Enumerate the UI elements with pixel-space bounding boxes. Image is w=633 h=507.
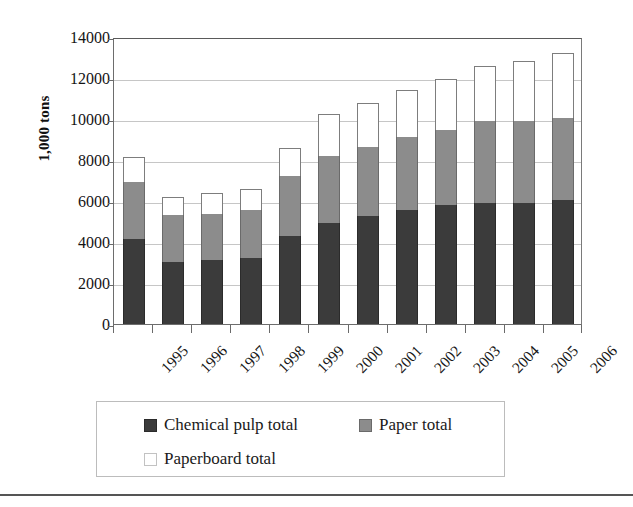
y-tick-label: 2000 xyxy=(52,276,110,292)
x-tick-label: 2000 xyxy=(352,342,386,377)
x-tick-mark xyxy=(230,325,231,333)
x-tick-label: 2004 xyxy=(509,342,543,377)
legend-entry-paper-total: Paper total xyxy=(359,408,452,442)
bar-group-2001 xyxy=(357,103,379,324)
y-tick-label: 4000 xyxy=(52,235,110,251)
x-tick-label: 1996 xyxy=(196,342,230,377)
bar-segment-chemical-pulp xyxy=(552,200,574,324)
bar-segment-chemical-pulp xyxy=(474,203,496,324)
bar-segment-paper xyxy=(162,215,184,262)
x-tick-mark xyxy=(113,325,114,333)
bar-segment-paper xyxy=(279,176,301,236)
bar-segment-paper xyxy=(513,121,535,203)
bar-group-2005 xyxy=(513,61,535,324)
chart-legend: Chemical pulp total Paper total Paperboa… xyxy=(96,401,505,477)
x-tick-mark xyxy=(348,325,349,333)
x-tick-label: 2002 xyxy=(431,342,465,377)
bar-segment-paper xyxy=(396,137,418,210)
bar-segment-paperboard xyxy=(435,79,457,130)
y-tick-label: 8000 xyxy=(52,153,110,169)
bar-segment-paperboard xyxy=(357,103,379,147)
bar-group-1996 xyxy=(162,197,184,324)
bar-group-2006 xyxy=(552,53,574,324)
bar-segment-paper xyxy=(240,210,262,258)
y-tick-label: 0 xyxy=(52,317,110,333)
bar-segment-chemical-pulp xyxy=(435,205,457,324)
legend-swatch-chemical-pulp xyxy=(144,419,157,432)
x-tick-label: 2001 xyxy=(391,342,425,377)
bar-group-1998 xyxy=(240,189,262,324)
x-tick-mark xyxy=(191,325,192,333)
x-tick-mark xyxy=(426,325,427,333)
bar-segment-paperboard xyxy=(201,193,223,214)
y-tick-label: 10000 xyxy=(52,112,110,128)
bar-group-2000 xyxy=(318,114,340,324)
plot-area xyxy=(113,38,582,325)
legend-label-paperboard: Paperboard total xyxy=(164,449,276,469)
legend-row-2: Paperboard total xyxy=(97,442,504,476)
legend-row-1: Chemical pulp total Paper total xyxy=(97,408,504,442)
bar-segment-chemical-pulp xyxy=(162,262,184,324)
bar-segment-chemical-pulp xyxy=(513,203,535,324)
legend-label-paper: Paper total xyxy=(379,415,452,435)
bar-segment-paper xyxy=(201,214,223,261)
bar-segment-paper xyxy=(552,118,574,200)
bar-segment-paperboard xyxy=(318,114,340,156)
legend-swatch-paperboard xyxy=(144,453,157,466)
x-tick-mark xyxy=(152,325,153,333)
bar-segment-paper xyxy=(318,156,340,223)
bar-segment-paperboard xyxy=(240,189,262,210)
bar-group-1995 xyxy=(123,157,145,324)
bar-segment-paperboard xyxy=(474,66,496,121)
x-tick-mark xyxy=(504,325,505,333)
x-tick-label: 1997 xyxy=(235,342,269,377)
x-tick-label: 2005 xyxy=(548,342,582,377)
x-tick-mark xyxy=(581,325,582,333)
bar-segment-paper xyxy=(123,182,145,239)
bar-segment-paperboard xyxy=(396,90,418,137)
x-tick-label: 2003 xyxy=(470,342,504,377)
x-tick-mark xyxy=(387,325,388,333)
legend-entry-paperboard-total: Paperboard total xyxy=(144,442,276,476)
bar-segment-paperboard xyxy=(279,148,301,176)
bar-segment-paperboard xyxy=(513,61,535,121)
bar-segment-paperboard xyxy=(552,53,574,118)
legend-label-chemical-pulp: Chemical pulp total xyxy=(164,415,298,435)
x-tick-mark xyxy=(308,325,309,333)
y-axis-tick-labels: 14000120001000080006000400020000 xyxy=(52,38,110,325)
y-tick-label: 12000 xyxy=(52,71,110,87)
legend-swatch-paper xyxy=(359,419,372,432)
bar-group-1999 xyxy=(279,148,301,324)
legend-entry-chemical-pulp-total: Chemical pulp total xyxy=(144,408,298,442)
bar-segment-chemical-pulp xyxy=(396,210,418,324)
x-tick-label: 1998 xyxy=(274,342,308,377)
bar-group-2004 xyxy=(474,66,496,324)
bar-segment-paperboard xyxy=(123,157,145,182)
bar-segment-chemical-pulp xyxy=(279,236,301,324)
bar-segment-chemical-pulp xyxy=(123,239,145,324)
bar-segment-chemical-pulp xyxy=(318,223,340,324)
x-tick-label: 2006 xyxy=(587,342,621,377)
bar-segment-paperboard xyxy=(162,197,184,215)
bar-group-2002 xyxy=(396,90,418,324)
y-axis-title: 1,000 tons xyxy=(36,59,53,199)
x-axis-tick-labels: 1995199619971998199920002001200220032004… xyxy=(113,336,582,398)
bar-segment-paper xyxy=(357,147,379,216)
x-tick-label: 1999 xyxy=(313,342,347,377)
bar-segment-chemical-pulp xyxy=(201,260,223,324)
bar-group-1997 xyxy=(201,193,223,324)
bars-layer xyxy=(114,39,581,324)
y-tick-label: 14000 xyxy=(52,30,110,46)
bar-segment-chemical-pulp xyxy=(240,258,262,324)
chart-figure: 1,000 tons 14000120001000080006000400020… xyxy=(0,0,633,507)
bar-segment-paper xyxy=(474,121,496,203)
x-tick-mark xyxy=(543,325,544,333)
bottom-rule xyxy=(0,494,633,496)
y-tick-label: 6000 xyxy=(52,194,110,210)
x-tick-label: 1995 xyxy=(157,342,191,377)
x-tick-mark xyxy=(465,325,466,333)
x-tick-mark xyxy=(269,325,270,333)
bar-segment-paper xyxy=(435,130,457,205)
bar-segment-chemical-pulp xyxy=(357,216,379,324)
bar-group-2003 xyxy=(435,79,457,324)
